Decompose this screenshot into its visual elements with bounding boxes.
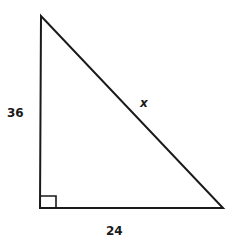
vertical-leg-label: 36 — [7, 106, 24, 120]
hypotenuse-label: x — [139, 96, 149, 110]
right-angle-marker — [40, 196, 56, 208]
triangle-diagram: 36 x 24 — [0, 0, 236, 245]
horizontal-leg-label: 24 — [106, 224, 123, 238]
right-triangle — [40, 16, 223, 208]
